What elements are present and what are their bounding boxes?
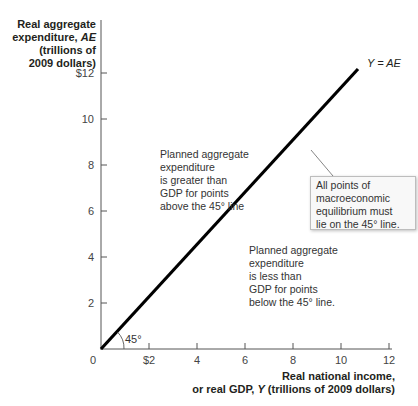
svg-text:Planned aggregate: Planned aggregate [160, 148, 249, 160]
x-tick-label: 12 [383, 354, 395, 366]
svg-text:(trillions of: (trillions of [39, 44, 96, 56]
y-tick-label: 2 [88, 297, 94, 309]
svg-text:expenditure, AE: expenditure, AE [12, 31, 96, 43]
svg-text:GDP for points: GDP for points [249, 283, 318, 295]
line-label: Y = AE [367, 57, 402, 69]
svg-text:below the 45° line.: below the 45° line. [249, 296, 335, 308]
y-axis-title: Real aggregate expenditure, AE (trillion… [12, 18, 96, 69]
x-tick-label: 0 [90, 354, 96, 366]
x-tick-label: 4 [194, 354, 200, 366]
svg-text:expenditure: expenditure [160, 161, 215, 173]
svg-text:Planned aggregate: Planned aggregate [249, 244, 338, 256]
svg-text:expenditure: expenditure [249, 257, 304, 269]
x-axis-title: Real national income, or real GDP, Y (tr… [192, 370, 395, 395]
svg-text:is less than: is less than [249, 270, 302, 282]
below-line-note: Planned aggregate expenditure is less th… [249, 244, 338, 308]
y-ticks [101, 73, 107, 303]
y-tick-label: 4 [88, 251, 94, 263]
x-tick-label: $2 [143, 354, 155, 366]
y-tick-labels: 2 4 6 8 10 $12 [76, 67, 94, 309]
angle-arc [118, 332, 125, 349]
svg-text:Real national income,: Real national income, [282, 370, 395, 382]
angle-label: 45° [125, 333, 142, 345]
svg-text:2009 dollars): 2009 dollars) [29, 57, 97, 69]
y-tick-label: 10 [82, 113, 94, 125]
x-tick-label: 10 [335, 354, 347, 366]
x-ticks [149, 343, 389, 349]
above-line-note: Planned aggregate expenditure is greater… [160, 148, 249, 212]
x-tick-labels: 0 $2 4 6 8 10 12 [90, 354, 395, 366]
svg-text:or real GDP, Y (trillions of 2: or real GDP, Y (trillions of 2009 dollar… [192, 383, 395, 395]
svg-text:is greater than: is greater than [160, 174, 227, 186]
svg-text:Real aggregate: Real aggregate [17, 18, 96, 30]
y-tick-label: 8 [88, 159, 94, 171]
callout-text: All points of macroeconomic equilibrium … [316, 179, 400, 231]
svg-text:GDP for points: GDP for points [160, 187, 229, 199]
y-tick-label: 6 [88, 205, 94, 217]
svg-text:above the 45° line: above the 45° line [160, 200, 244, 212]
x-tick-label: 8 [290, 354, 296, 366]
callout-leader [311, 150, 333, 176]
x-tick-label: 6 [242, 354, 248, 366]
